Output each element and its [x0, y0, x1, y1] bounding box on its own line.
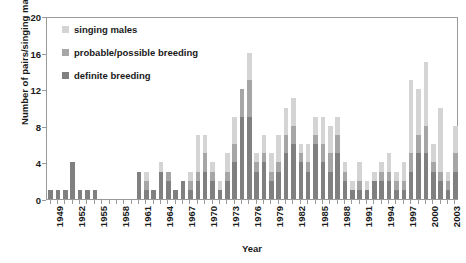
bar-segment-probable-possible-breeding [394, 181, 399, 190]
bar-segment-definite-breeding [232, 162, 237, 199]
bar-segment-probable-possible-breeding [402, 181, 407, 190]
x-axis-tick-mark [234, 200, 235, 204]
bar-segment-singing-males [299, 144, 304, 153]
bar [269, 153, 274, 199]
bar-segment-definite-breeding [196, 181, 201, 199]
x-axis-tick-mark [292, 200, 293, 204]
x-axis-tick-mark [57, 200, 58, 204]
x-axis-tick-mark [197, 200, 198, 204]
bar [424, 62, 429, 199]
bar [218, 181, 223, 199]
bar [394, 172, 399, 199]
bar-segment-definite-breeding [387, 181, 392, 199]
x-axis-tick-mark [454, 200, 455, 204]
bar [166, 172, 171, 199]
x-axis-tick-mark [86, 200, 87, 204]
bar-segment-singing-males [446, 172, 451, 181]
bar-segment-singing-males [218, 181, 223, 190]
bar-segment-singing-males [196, 135, 201, 172]
bar [225, 153, 230, 199]
bar-segment-definite-breeding [159, 172, 164, 199]
x-axis-tick-mark [212, 200, 213, 204]
bar-segment-probable-possible-breeding [321, 144, 326, 162]
x-axis-tick-label: 1961 [142, 206, 153, 227]
bar-segment-definite-breeding [144, 190, 149, 199]
x-axis-tick-mark [425, 200, 426, 204]
bar-segment-probable-possible-breeding [335, 135, 340, 153]
bar [402, 162, 407, 199]
bar-segment-singing-males [247, 53, 252, 80]
x-axis-tick-mark [366, 200, 367, 204]
x-axis-tick-mark [381, 200, 382, 204]
bar [56, 190, 61, 199]
bar [328, 126, 333, 199]
bar-segment-singing-males [328, 126, 333, 153]
bar-segment-singing-males [188, 172, 193, 181]
bar-segment-probable-possible-breeding [357, 181, 362, 190]
bar-segment-definite-breeding [372, 181, 377, 199]
bar-segment-definite-breeding [203, 172, 208, 199]
x-axis-tick-mark [145, 200, 146, 204]
x-axis-title: Year [46, 243, 458, 254]
y-axis-tick-label: 16 [15, 48, 41, 59]
bar-segment-definite-breeding [70, 162, 75, 199]
bar [151, 190, 156, 199]
x-axis-tick-mark [440, 200, 441, 204]
x-axis-tick-label: 1958 [120, 206, 131, 227]
x-axis-tick-mark [410, 200, 411, 204]
bar [48, 190, 53, 199]
x-axis-tick-label: 1991 [363, 206, 374, 227]
bar [291, 98, 296, 199]
bar-segment-definite-breeding [181, 181, 186, 199]
bar-segment-singing-males [387, 153, 392, 171]
bar [254, 153, 259, 199]
bar [247, 53, 252, 199]
bar-segment-probable-possible-breeding [343, 172, 348, 181]
bar-segment-probable-possible-breeding [269, 172, 274, 181]
bar [181, 181, 186, 199]
bar-chart: Number of pairs/singing males 048121620 … [0, 0, 466, 263]
bar-segment-probable-possible-breeding [144, 181, 149, 190]
bar [343, 162, 348, 199]
bar-segment-definite-breeding [321, 162, 326, 199]
bar [276, 135, 281, 199]
x-axis-tick-label: 1970 [208, 206, 219, 227]
bar-segment-probable-possible-breeding [299, 153, 304, 162]
bar-segment-probable-possible-breeding [313, 135, 318, 144]
x-axis-tick-mark [278, 200, 279, 204]
bar [313, 117, 318, 199]
bar [365, 181, 370, 199]
bar [232, 117, 237, 199]
x-axis-tick-mark [256, 200, 257, 204]
bar-segment-probable-possible-breeding [166, 172, 171, 181]
x-axis-tick-label: 1973 [230, 206, 241, 227]
bar [93, 190, 98, 199]
x-axis-tick-mark [175, 200, 176, 204]
bar-segment-probable-possible-breeding [431, 162, 436, 171]
bar [210, 162, 215, 199]
bar-segment-singing-males [276, 135, 281, 162]
bar-segment-singing-males [144, 172, 149, 181]
x-axis-tick-mark [248, 200, 249, 204]
bar-segment-definite-breeding [93, 190, 98, 199]
x-axis-tick-label: 1964 [164, 206, 175, 227]
x-axis-tick-mark [116, 200, 117, 204]
bar-segment-singing-males [431, 144, 436, 162]
bar [387, 153, 392, 199]
bar [196, 135, 201, 199]
bar-segment-definite-breeding [343, 181, 348, 199]
bar [85, 190, 90, 199]
bar-segment-singing-males [424, 62, 429, 126]
bar-segment-definite-breeding [328, 172, 333, 199]
bar-segment-singing-males [365, 181, 370, 190]
x-axis-tick-mark [388, 200, 389, 204]
x-axis-tick-mark [418, 200, 419, 204]
bar [335, 117, 340, 199]
bar-segment-probable-possible-breeding [291, 126, 296, 144]
bar-segment-singing-males [438, 108, 443, 172]
bar-segment-definite-breeding [276, 172, 281, 199]
bar-segment-singing-males [159, 162, 164, 171]
bar-segment-definite-breeding [48, 190, 53, 199]
legend-label: probable/possible breeding [74, 47, 198, 58]
x-axis-tick-label: 1985 [319, 206, 330, 227]
